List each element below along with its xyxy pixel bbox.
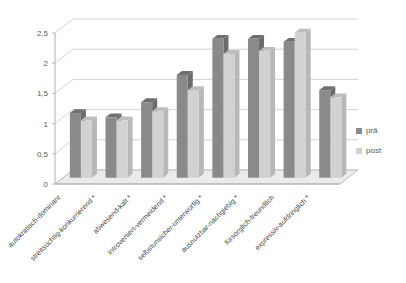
floor-plane [55, 170, 358, 184]
gridlines [55, 19, 358, 184]
bar [295, 29, 311, 178]
y-axis-tick-label: 1 [44, 120, 49, 129]
y-axis-tick-label: 0 [44, 180, 49, 189]
bar [259, 47, 275, 178]
chart-floor [55, 170, 358, 184]
y-axis-tick-label: 1,5 [37, 89, 49, 98]
y-axis-tick-label: 2,5 [37, 29, 49, 38]
bar [223, 50, 239, 178]
legend-label: post [366, 146, 382, 155]
bar [330, 93, 346, 177]
bar [117, 116, 133, 177]
bar-chart: 00,511,522,5 autokratisch-dominantstreit… [0, 0, 406, 283]
y-axis-tick-label: 2 [44, 59, 49, 68]
bar [81, 116, 97, 177]
chart-canvas: 00,511,522,5 autokratisch-dominantstreit… [0, 0, 406, 283]
y-axis-tick-label: 0,5 [37, 150, 49, 159]
bar [188, 86, 204, 177]
legend-swatch [356, 128, 362, 134]
legend-swatch [356, 148, 362, 154]
legend-label: prä [366, 126, 378, 135]
bar [152, 107, 168, 177]
